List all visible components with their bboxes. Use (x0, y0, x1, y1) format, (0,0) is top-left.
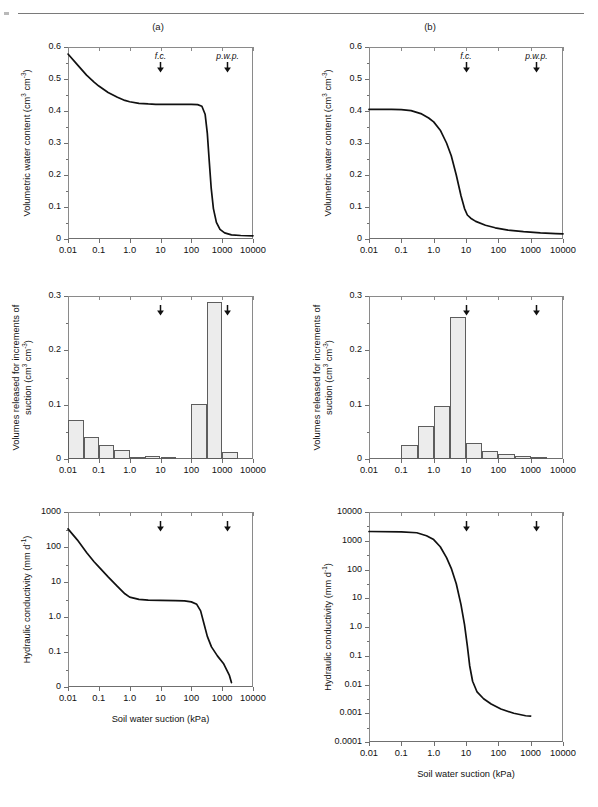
bar (450, 317, 466, 459)
bar (222, 452, 238, 459)
x-tick (401, 459, 402, 463)
y-tick (365, 405, 369, 406)
bar (418, 426, 434, 459)
y-tick-minor (66, 323, 69, 324)
x-tick (161, 687, 162, 691)
x-tick-top (68, 296, 69, 300)
y-axis-title: Volumetric water content (cm3 cm-3) (22, 47, 32, 239)
x-tick-top (253, 512, 254, 516)
bar (498, 454, 514, 459)
y-axis-title: Volumes released for increments of (11, 296, 21, 459)
x-tick-top (466, 296, 467, 300)
x-axis-title: Soil water suction (kPa) (369, 769, 563, 779)
x-tick (130, 239, 131, 243)
header-rule (18, 13, 584, 14)
bar (114, 450, 129, 459)
x-tick (222, 687, 223, 691)
x-tick-label: 10000 (541, 748, 585, 758)
y-axis-title: Hydraulic conductivity (mm d-1) (22, 512, 32, 687)
x-tick (369, 459, 370, 463)
y-tick-minor (367, 323, 370, 324)
x-tick (161, 459, 162, 463)
x-tick (466, 742, 467, 746)
y-axis-title: Volumes released for increments of (312, 296, 322, 459)
x-tick (531, 459, 532, 463)
x-tick-label: 10000 (541, 465, 585, 475)
bar (161, 457, 177, 459)
x-tick-top (563, 47, 564, 51)
y-axis-title-line2: suction (cm3 cm-3) (23, 296, 33, 459)
bar (84, 437, 99, 459)
x-tick (563, 239, 564, 243)
x-tick-top (222, 296, 223, 300)
x-tick (68, 459, 69, 463)
x-tick-top (434, 296, 435, 300)
bar (515, 456, 531, 459)
x-tick (191, 687, 192, 691)
x-tick (191, 239, 192, 243)
y-tick (365, 350, 369, 351)
y-axis-title: Volumetric water content (cm3 cm-3) (323, 47, 333, 239)
x-tick-top (253, 296, 254, 300)
y-tick (64, 405, 68, 406)
annotation-fc-arrow (156, 305, 165, 316)
x-tick (253, 459, 254, 463)
bar (191, 404, 207, 459)
y-axis-title: Hydraulic conductivity (mm d-1) (323, 512, 333, 742)
bar (531, 457, 547, 459)
bar (130, 457, 146, 459)
bar (466, 443, 482, 459)
x-tick (99, 459, 100, 463)
x-tick (498, 459, 499, 463)
plot-a-top: 00.10.20.30.40.50.60.010.11.010100100010… (68, 47, 253, 239)
bar (99, 445, 115, 459)
x-tick (99, 687, 100, 691)
x-tick-top (401, 296, 402, 300)
x-tick (563, 459, 564, 463)
x-tick (466, 239, 467, 243)
bar (482, 451, 498, 459)
x-tick (434, 742, 435, 746)
y-axis-title-line2: suction (cm3 cm-3) (324, 296, 334, 459)
x-tick-top (369, 296, 370, 300)
plot-a-mid: 00.10.20.30.010.11.010100100010000Volume… (68, 296, 253, 459)
x-tick (531, 239, 532, 243)
x-tick (130, 687, 131, 691)
x-tick-top (563, 296, 564, 300)
x-tick-top (99, 296, 100, 300)
bar (434, 406, 450, 459)
plot-b-top: 00.10.20.30.40.50.60.010.11.010100100010… (369, 47, 563, 239)
x-tick (531, 742, 532, 746)
x-tick (401, 742, 402, 746)
annotation-pwp-arrow (223, 305, 232, 316)
y-tick-minor (367, 432, 370, 433)
x-tick (222, 239, 223, 243)
x-tick-top (130, 296, 131, 300)
x-tick-top (563, 512, 564, 516)
annotation-fc-arrow (462, 305, 471, 316)
x-tick (253, 239, 254, 243)
bar (207, 302, 222, 459)
x-tick-label: 10000 (541, 245, 585, 255)
x-tick (68, 239, 69, 243)
data-curve (68, 47, 253, 239)
x-tick (369, 239, 370, 243)
x-tick (99, 239, 100, 243)
x-tick (191, 459, 192, 463)
plot-b-bot: 0.00010.0010.010.11.0101001000100000.010… (369, 512, 563, 742)
plot-b-mid: 00.10.20.30.010.11.010100100010000Volume… (369, 296, 563, 459)
y-tick-minor (367, 378, 370, 379)
x-tick-top (531, 296, 532, 300)
x-tick (161, 239, 162, 243)
x-tick (401, 239, 402, 243)
x-tick (498, 742, 499, 746)
x-tick (434, 239, 435, 243)
data-curve (369, 47, 563, 239)
annotation-pwp-arrow (532, 305, 541, 316)
bar (401, 445, 417, 459)
x-tick (498, 239, 499, 243)
x-axis-title: Soil water suction (kPa) (68, 714, 253, 724)
plot-frame (369, 296, 563, 459)
plot-a-bot: 00.11.01010010000.010.11.010100100010000… (68, 512, 253, 687)
x-tick (369, 742, 370, 746)
